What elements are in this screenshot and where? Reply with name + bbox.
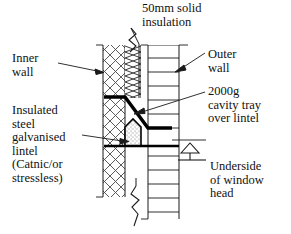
underside-of-window-head-label: Underside of window head	[210, 160, 264, 201]
insulated-steel-lintel-label: Insulated steel galvanised lintel (Catni…	[12, 104, 65, 186]
cavity-tray-label: 2000g cavity tray over lintel	[208, 85, 261, 126]
inner-wall-label: Inner wall	[12, 52, 38, 79]
break-line-icon-bottom	[131, 178, 139, 226]
diagram-canvas: 50mm solid insulation Inner wall Insulat…	[0, 0, 291, 234]
outer-wall-leaf	[148, 45, 179, 219]
insulation-title-label: 50mm solid insulation	[142, 2, 201, 29]
outer-wall-label: Outer wall	[208, 48, 236, 75]
inner-wall-leaf	[103, 45, 125, 197]
